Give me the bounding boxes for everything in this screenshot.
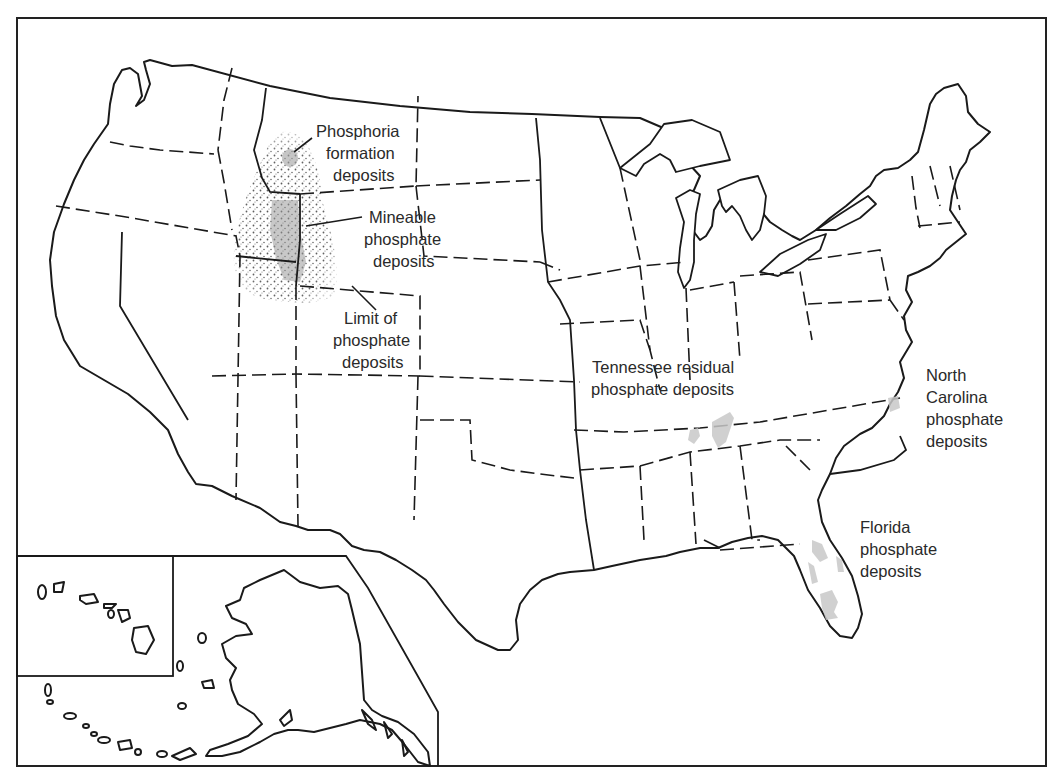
svg-text:phosphate: phosphate	[926, 410, 1003, 428]
tennessee-deposit-2	[712, 412, 734, 448]
lake-huron	[718, 176, 766, 240]
inset-divider-top	[17, 556, 438, 766]
alaska	[45, 570, 430, 766]
svg-text:phosphate: phosphate	[860, 540, 937, 558]
lake-ontario	[816, 196, 876, 230]
svg-text:formation: formation	[326, 144, 395, 162]
svg-text:deposits: deposits	[860, 562, 921, 580]
label-phosphoria: Phosphoria formation deposits	[316, 122, 400, 184]
svg-text:Limit of: Limit of	[344, 309, 398, 327]
phosphoria-stipple-region	[234, 132, 337, 303]
svg-text:deposits: deposits	[342, 353, 403, 371]
svg-text:Carolina: Carolina	[926, 388, 988, 406]
svg-text:North: North	[926, 366, 966, 384]
svg-text:Florida: Florida	[860, 518, 911, 536]
florida-deposit-4	[820, 590, 838, 620]
insets	[17, 556, 438, 766]
great-lakes	[620, 120, 876, 288]
label-tennessee: Tennessee residual phosphate deposits	[591, 358, 734, 398]
phosphate-deposits-map: Phosphoria formation deposits Mineable p…	[0, 0, 1052, 779]
florida-deposit-1	[812, 540, 828, 562]
svg-text:deposits: deposits	[373, 252, 434, 270]
lake-erie	[760, 234, 826, 276]
label-florida: Florida phosphate deposits	[860, 518, 937, 580]
limit-leader	[352, 286, 376, 310]
svg-text:Tennessee residual: Tennessee residual	[592, 358, 734, 376]
svg-text:phosphate deposits: phosphate deposits	[591, 380, 734, 398]
tennessee-deposit-1	[688, 428, 700, 444]
svg-text:phosphate: phosphate	[333, 331, 410, 349]
lake-superior	[620, 120, 730, 176]
hawaii-islands	[38, 582, 154, 654]
svg-text:deposits: deposits	[333, 166, 394, 184]
hawaii-inset	[17, 556, 173, 676]
us-outline	[50, 60, 990, 650]
label-mineable: Mineable phosphate deposits	[364, 208, 441, 270]
svg-text:phosphate: phosphate	[364, 230, 441, 248]
florida-deposit-2	[808, 562, 818, 584]
svg-text:deposits: deposits	[926, 432, 987, 450]
svg-text:Mineable: Mineable	[369, 208, 436, 226]
lake-michigan	[676, 190, 700, 288]
label-limit: Limit of phosphate deposits	[333, 309, 410, 371]
svg-text:Phosphoria: Phosphoria	[316, 122, 400, 140]
label-north-carolina: North Carolina phosphate deposits	[926, 366, 1003, 450]
north-carolina-deposit	[888, 396, 900, 412]
